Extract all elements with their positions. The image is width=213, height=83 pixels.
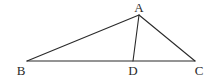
triangle-diagram: A B C D bbox=[0, 0, 213, 83]
vertex-label-b: B bbox=[17, 63, 26, 78]
segments-group bbox=[27, 15, 195, 61]
segment-ab bbox=[27, 15, 139, 61]
vertex-label-a: A bbox=[134, 0, 144, 15]
vertex-label-d: D bbox=[128, 63, 137, 78]
segment-ad bbox=[133, 15, 139, 61]
labels-group: A B C D bbox=[17, 0, 204, 78]
vertex-label-c: C bbox=[195, 63, 204, 78]
segment-ac bbox=[139, 15, 195, 61]
